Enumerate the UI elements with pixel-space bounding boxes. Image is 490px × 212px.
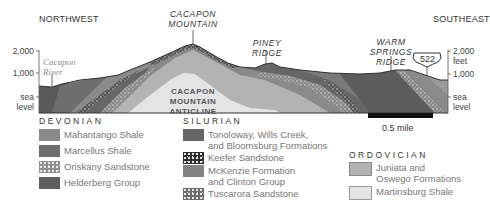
left-axis-2000: 2,000: [10, 46, 34, 56]
legend-item-martinsburg: Martinsburg Shale: [349, 186, 461, 200]
legend-item-tonoloway: Tonoloway, Wills Creek, and Bloomsburg F…: [183, 129, 327, 151]
legend-label: Tonoloway, Wills Creek, and Bloomsburg F…: [208, 129, 327, 151]
peak-label-line: MOUNTAIN: [163, 19, 223, 29]
swatch-mahantango: [39, 129, 60, 141]
swatch-helderberg: [39, 177, 60, 189]
right-axis-sea-level: sea level: [453, 92, 470, 112]
cacapon-river-label: Cacapon River: [43, 57, 76, 77]
legend-label: Marcellus Shale: [64, 145, 132, 156]
legend-title-ordovician: ORDOVICIAN: [349, 150, 461, 160]
left-axis-sea-level: sea level: [10, 92, 34, 112]
swatch-marcellus: [39, 145, 60, 157]
legend-silurian: SILURIAN Tonoloway, Wills Creek, and Blo…: [183, 116, 327, 200]
left-axis-1000: 1,000: [10, 68, 34, 78]
legend-label: McKenzie Formation and Clinton Group: [208, 165, 295, 187]
legend-item-helderberg: Helderberg Group: [39, 177, 150, 189]
swatch-oriskany: [39, 161, 60, 173]
legend-title-devonian: DEVONIAN: [39, 116, 150, 126]
anticline-text: MOUNTAIN: [157, 97, 229, 107]
legend-item-juniata: Juniata and Oswego Formations: [349, 162, 461, 184]
axis-text: sea: [10, 92, 34, 102]
legend-ordovician: ORDOVICIAN Juniata and Oswego Formations…: [349, 150, 461, 200]
legend-label: Tuscarora Sandstone: [208, 188, 298, 199]
anticline-text: CACAPON: [157, 87, 229, 97]
river-text: River: [43, 67, 76, 77]
scale-bar-label: 0.5 mile: [382, 123, 414, 133]
legend-item-keefer: Keefer Sandstone: [183, 152, 327, 164]
legend-label-line: Oswego Formations: [376, 173, 461, 184]
scale-bar-rect: [368, 113, 433, 118]
legend-devonian: DEVONIAN Mahantango Shale Marcellus Shal…: [39, 116, 150, 189]
southeast-label: SOUTHEAST: [433, 14, 490, 24]
legend-label: Keefer Sandstone: [208, 152, 284, 163]
legend-label: Juniata and Oswego Formations: [376, 162, 461, 184]
axis-text: level: [10, 102, 34, 112]
legend-item-oriskany: Oriskany Sandstone: [39, 161, 150, 173]
legend-item-tuscarora: Tuscarora Sandstone: [183, 188, 327, 200]
swatch-mckenzie: [183, 165, 204, 177]
swatch-tonoloway: [183, 129, 204, 141]
right-axis-2000: 2,000 feet: [453, 46, 489, 66]
piney-ridge-label: PINEY RIDGE: [237, 38, 297, 58]
highway-522-label: 522: [414, 54, 441, 64]
legend-item-marcellus: Marcellus Shale: [39, 145, 150, 157]
swatch-tuscarora: [183, 188, 204, 200]
legend-label-line: Juniata and: [376, 162, 461, 173]
legend-label-line: McKenzie Formation: [208, 165, 295, 176]
legend-item-mahantango: Mahantango Shale: [39, 129, 150, 141]
cacapon-mountain-label: CACAPON MOUNTAIN: [163, 9, 223, 29]
peak-label-line: CACAPON: [163, 9, 223, 19]
legend-label-line: and Bloomsburg Formations: [208, 140, 327, 151]
legend-label-line: Tonoloway, Wills Creek,: [208, 129, 327, 140]
legend-label: Helderberg Group: [64, 177, 140, 188]
legend-label: Oriskany Sandstone: [64, 161, 150, 172]
river-text: Cacapon: [43, 57, 76, 67]
swatch-juniata: [349, 162, 372, 176]
legend-label: Martinsburg Shale: [376, 186, 453, 197]
swatch-martinsburg: [349, 186, 372, 200]
legend-label: Mahantango Shale: [64, 129, 144, 140]
axis-text: sea: [453, 92, 470, 102]
swatch-keefer: [183, 152, 204, 164]
right-axis-1000: 1,000: [453, 69, 474, 79]
axis-text: level: [453, 102, 470, 112]
northwest-label: NORTHWEST: [39, 14, 99, 24]
legend-item-mckenzie: McKenzie Formation and Clinton Group: [183, 165, 327, 187]
legend-title-silurian: SILURIAN: [183, 116, 327, 126]
legend-label-line: and Clinton Group: [208, 176, 295, 187]
anticline-label: CACAPON MOUNTAIN ANTICLINE: [157, 87, 229, 117]
